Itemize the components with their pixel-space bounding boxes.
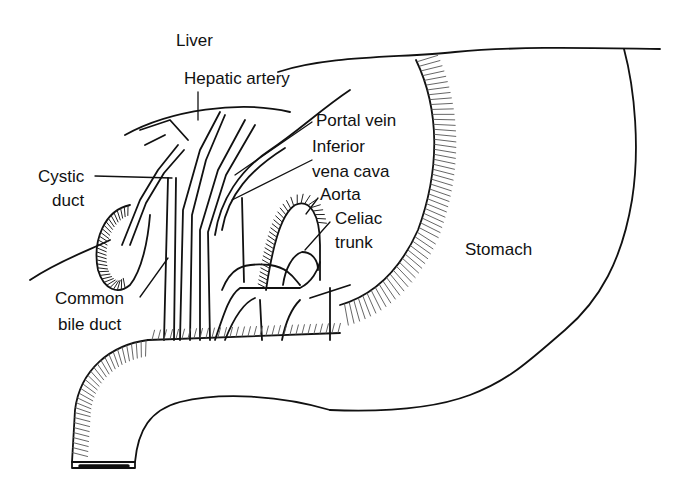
omentum-hatch-mark bbox=[433, 124, 455, 125]
duodenum-hatch-mark bbox=[118, 349, 123, 365]
omentum-hatch-mark bbox=[415, 237, 433, 249]
gallbladder-hatch-mark bbox=[97, 256, 107, 259]
omentum-hatch-mark bbox=[434, 159, 456, 164]
aorta-hatch-mark bbox=[259, 276, 267, 280]
omentum-hatch-mark bbox=[393, 270, 408, 287]
duodenum-hatch-mark bbox=[73, 438, 89, 442]
gallbladder-hatch-mark bbox=[97, 252, 107, 255]
gallbladder-hatch-mark bbox=[97, 264, 107, 266]
duodenum-hatch-mark bbox=[146, 340, 147, 356]
gallbladder-hatch-mark bbox=[98, 268, 108, 269]
duodenum-hatch-mark bbox=[242, 327, 245, 337]
duodenum-hatch-mark bbox=[308, 324, 311, 334]
duodenum-hatch-mark bbox=[94, 367, 104, 380]
aorta-hatch-mark bbox=[267, 240, 275, 245]
omentum-hatch-mark bbox=[430, 98, 452, 100]
omentum-hatch-mark bbox=[434, 139, 456, 142]
duodenum-hatch-mark bbox=[272, 325, 275, 335]
duodenum-hatch-mark bbox=[278, 325, 281, 335]
duodenum-hatch-mark bbox=[206, 328, 209, 338]
aorta-hatch-mark bbox=[261, 268, 269, 273]
omentum-hatch-mark bbox=[433, 119, 455, 120]
duodenum-hatch-mark bbox=[332, 323, 335, 333]
omentum-hatch-mark bbox=[397, 266, 412, 282]
gallbladder-hatch-mark bbox=[97, 248, 107, 252]
aorta-hatch-mark bbox=[316, 218, 325, 219]
omentum-hatch-mark bbox=[427, 87, 449, 90]
omentum-hatch-mark bbox=[390, 274, 404, 291]
omentum-hatch-mark bbox=[410, 246, 428, 259]
leader-cystic-duct bbox=[95, 176, 172, 178]
duodenum-hatch-mark bbox=[320, 324, 323, 334]
gallbladder-hatch-mark bbox=[124, 207, 125, 217]
duodenum-hatch-mark bbox=[290, 325, 293, 335]
anatomy-diagram: Liver Hepatic artery Portal vein Inferio… bbox=[0, 0, 673, 491]
omentum-hatch-mark bbox=[431, 103, 453, 104]
omentum-hatch-mark bbox=[434, 134, 456, 136]
label-portal-vein: Portal vein bbox=[316, 111, 396, 130]
label-celiac-1: Celiac bbox=[335, 209, 383, 228]
omentum-hatch-mark bbox=[354, 300, 360, 321]
omentum-hatch-mark bbox=[421, 66, 443, 71]
omentum-hatch-mark bbox=[405, 254, 422, 268]
label-aorta: Aorta bbox=[320, 185, 361, 204]
duodenum-hatch-mark bbox=[194, 328, 197, 338]
omentum-hatch-mark bbox=[433, 164, 455, 169]
omentum-hatch-mark bbox=[358, 298, 365, 319]
duodenum-hatch-mark bbox=[74, 423, 90, 427]
omentum-hatch-mark bbox=[417, 55, 438, 62]
leader-ivc bbox=[232, 160, 312, 200]
aorta-hatch-mark bbox=[260, 272, 268, 276]
aorta-hatch-mark bbox=[275, 216, 282, 222]
aorta-hatch-mark bbox=[269, 232, 277, 237]
aorta-hatch-mark bbox=[291, 197, 294, 206]
omentum-hatch-mark bbox=[428, 92, 450, 94]
omentum-hatch-mark bbox=[379, 284, 391, 303]
label-stomach: Stomach bbox=[465, 240, 532, 259]
duodenum-hatch-mark bbox=[73, 433, 89, 437]
leader-cbd bbox=[140, 258, 168, 297]
omentum-hatch-mark bbox=[424, 76, 446, 80]
label-celiac-2: trunk bbox=[335, 233, 373, 252]
gallbladder-hatch-mark bbox=[121, 208, 123, 218]
duodenum-hatch-mark bbox=[127, 345, 130, 361]
duodenum-hatch-mark bbox=[73, 443, 89, 447]
aorta-hatch-mark bbox=[272, 224, 279, 230]
duodenum-hatch-mark bbox=[314, 324, 317, 334]
aorta-hatch-mark bbox=[274, 220, 281, 226]
aorta-hatch-mark bbox=[286, 200, 290, 208]
omentum-hatch-mark bbox=[421, 223, 441, 233]
duodenum-hatch-mark bbox=[131, 344, 133, 360]
aorta-hatch-mark bbox=[266, 244, 274, 249]
omentum-hatch-mark bbox=[423, 71, 445, 76]
omentum-hatch-mark bbox=[413, 241, 431, 254]
duodenum-hatch-mark bbox=[91, 371, 102, 383]
omentum-hatch-mark bbox=[424, 213, 444, 222]
duodenum-hatch-mark bbox=[74, 428, 90, 432]
omentum-hatch-mark bbox=[433, 169, 454, 175]
duodenum-hatch-mark bbox=[81, 388, 95, 397]
cystic-duct bbox=[122, 120, 188, 245]
omentum-hatch-mark bbox=[344, 304, 348, 326]
aorta-hatch-mark bbox=[270, 228, 278, 234]
duodenum-hatch-mark bbox=[248, 326, 251, 336]
gallbladder-hatch-mark bbox=[102, 277, 112, 280]
duodenum-hatch-mark bbox=[88, 375, 100, 386]
duodenum-hatch-mark bbox=[83, 384, 96, 394]
duodenum-hatch-mark bbox=[122, 347, 126, 363]
aorta-hatch-mark bbox=[314, 210, 323, 211]
label-cystic-2: duct bbox=[52, 191, 84, 210]
aorta-hatch-mark bbox=[268, 236, 276, 241]
duodenum-hatch-mark bbox=[254, 326, 257, 336]
aorta-hatch-mark bbox=[263, 256, 271, 261]
leader-celiac bbox=[305, 222, 330, 250]
duodenum-hatch-mark bbox=[236, 327, 239, 337]
aorta-hatch-mark bbox=[265, 248, 273, 253]
label-cbd-1: Common bbox=[55, 289, 124, 308]
omentum-hatch-mark bbox=[426, 82, 448, 86]
omentum-hatch-mark bbox=[408, 250, 425, 264]
omentum-hatch-mark bbox=[434, 154, 456, 158]
duodenum-hatch-mark bbox=[176, 329, 179, 339]
aorta-hatch-mark bbox=[264, 252, 272, 257]
leader-portal-vein bbox=[235, 122, 312, 175]
